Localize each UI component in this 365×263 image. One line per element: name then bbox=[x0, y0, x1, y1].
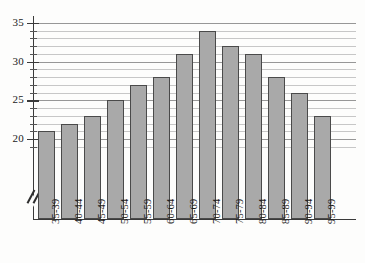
y-axis-tick-label: 35 bbox=[0, 16, 24, 28]
gridline-minor bbox=[33, 77, 356, 78]
y-axis-tick-label: 25 bbox=[0, 93, 24, 105]
gridline-minor bbox=[33, 124, 356, 125]
y-tick-minor bbox=[30, 93, 37, 94]
x-axis-tick-label: 60-64 bbox=[165, 178, 176, 224]
x-axis-tick-label: 80-84 bbox=[257, 178, 268, 224]
y-tick-minor bbox=[30, 69, 37, 70]
x-axis-tick-label: 40-44 bbox=[73, 178, 84, 224]
gridline-minor bbox=[33, 31, 356, 32]
y-tick-minor bbox=[30, 77, 37, 78]
x-axis-tick-label: 95-99 bbox=[326, 178, 337, 224]
gridline-minor bbox=[33, 147, 356, 148]
y-tick-minor bbox=[30, 38, 37, 39]
x-axis-tick-label: 45-49 bbox=[96, 178, 107, 224]
y-axis-tick-label: 30 bbox=[0, 55, 24, 67]
x-axis-tick-label: 85-89 bbox=[280, 178, 291, 224]
x-axis-tick-label: 75-79 bbox=[234, 178, 245, 224]
gridline-minor bbox=[33, 46, 356, 47]
y-tick-minor bbox=[30, 147, 37, 148]
y-tick-minor bbox=[30, 31, 37, 32]
y-tick-minor bbox=[30, 131, 37, 132]
gridline-minor bbox=[33, 116, 356, 117]
bar-chart-figure: 20253035 35-3940-4445-4950-5455-5960-646… bbox=[0, 0, 365, 263]
y-tick-major bbox=[27, 23, 39, 24]
gridline-minor bbox=[33, 85, 356, 86]
x-axis-tick-label: 55-59 bbox=[142, 178, 153, 224]
y-axis-tick-label: 20 bbox=[0, 132, 24, 144]
y-tick-minor bbox=[30, 46, 37, 47]
gridline-minor bbox=[33, 108, 356, 109]
y-tick-minor bbox=[30, 124, 37, 125]
y-tick-minor bbox=[30, 108, 37, 109]
gridline-major bbox=[33, 100, 356, 101]
gridline-minor bbox=[33, 93, 356, 94]
x-axis-tick-label: 70-74 bbox=[211, 178, 222, 224]
x-axis-tick-label: 65-69 bbox=[188, 178, 199, 224]
y-tick-major bbox=[27, 62, 39, 63]
gridline-minor bbox=[33, 38, 356, 39]
gridline-minor bbox=[33, 131, 356, 132]
gridline-major bbox=[33, 23, 356, 24]
gridline-major bbox=[33, 62, 356, 63]
y-tick-minor bbox=[30, 116, 37, 117]
x-axis-tick-label: 50-54 bbox=[119, 178, 130, 224]
x-axis-tick-label: 90-94 bbox=[303, 178, 314, 224]
y-tick-major bbox=[27, 100, 39, 101]
gridline-major bbox=[33, 139, 356, 140]
y-tick-minor bbox=[30, 54, 37, 55]
gridline-minor bbox=[33, 54, 356, 55]
gridline-minor bbox=[33, 69, 356, 70]
x-axis-tick-label: 35-39 bbox=[50, 178, 61, 224]
y-tick-minor bbox=[30, 85, 37, 86]
